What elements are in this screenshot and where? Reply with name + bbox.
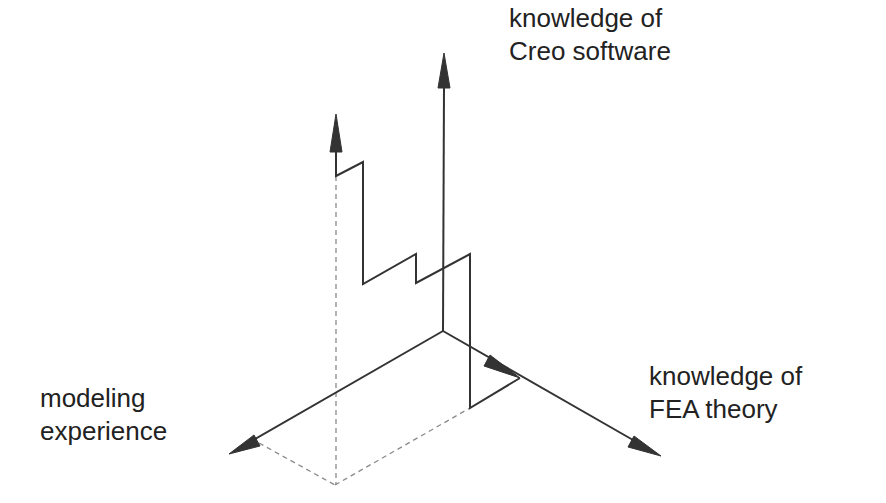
axes (250, 86, 640, 444)
fea-axis-arrowhead-icon (628, 436, 661, 456)
fea-axis-line (443, 331, 640, 444)
dashed-fea-projection (335, 408, 470, 485)
creo-label-line2: Creo software (509, 35, 671, 68)
fea-inner-arrowhead-icon (484, 355, 520, 378)
fea-axis-label: knowledge of FEA theory (649, 360, 802, 426)
creo-axis-line (443, 86, 444, 331)
creo-axis-label: knowledge of Creo software (509, 2, 671, 68)
dashed-modeling-projection (259, 443, 335, 485)
skill-staircase-path (336, 152, 520, 408)
modeling-axis-line (250, 331, 443, 442)
modeling-label-line1: modeling (40, 382, 167, 415)
staircase-arrowhead-icon (330, 114, 342, 152)
modeling-axis-arrowhead-icon (229, 435, 260, 454)
arrowheads (229, 53, 661, 456)
creo-label-line1: knowledge of (509, 2, 671, 35)
modeling-axis-label: modeling experience (40, 382, 167, 448)
fea-label-line1: knowledge of (649, 360, 802, 393)
creo-axis-arrowhead-icon (438, 53, 450, 88)
modeling-label-line2: experience (40, 415, 167, 448)
dashed-projection-lines (259, 176, 470, 485)
fea-label-line2: FEA theory (649, 393, 802, 426)
